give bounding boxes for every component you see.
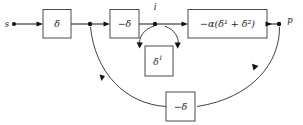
node-s-label: s [5, 19, 10, 29]
arrowhead-selfloop-down [137, 42, 143, 48]
block-delta-label: δ [54, 18, 60, 29]
node-p-label: p [287, 15, 293, 25]
block-feedback-neg-delta-label: −δ [174, 101, 188, 112]
arrowhead-branch-to-neg-delta [104, 21, 111, 26]
arrowhead-i-to-alpha [182, 21, 189, 26]
flow-diagram-svg: s δ −δ i −α(δ¹ + δ²) p [0, 0, 303, 125]
arrowhead-feedback-to-branch [100, 75, 106, 82]
block-neg-delta-label: −δ [118, 18, 132, 29]
arrowhead-p-feedback [252, 64, 259, 71]
block-transfer-function-label: −α(δ¹ + δ²) [200, 18, 255, 29]
node-p-dot[interactable] [277, 22, 281, 26]
block-diagram-canvas: s δ −δ i −α(δ¹ + δ²) p [0, 0, 303, 125]
block-self-loop-delta1[interactable] [145, 46, 173, 76]
node-i-label: i [154, 2, 157, 12]
node-branch-dot[interactable] [88, 22, 92, 26]
arrowhead-selfloop-up [175, 43, 181, 49]
node-i-dot[interactable] [153, 22, 157, 26]
edge-p-to-feedback-box [197, 27, 280, 107]
self-loop-superscript: 1 [159, 54, 163, 61]
arrowhead-s-to-delta [37, 21, 44, 26]
node-s-dot[interactable] [12, 22, 16, 26]
arrowhead-alpha-out [266, 21, 273, 26]
